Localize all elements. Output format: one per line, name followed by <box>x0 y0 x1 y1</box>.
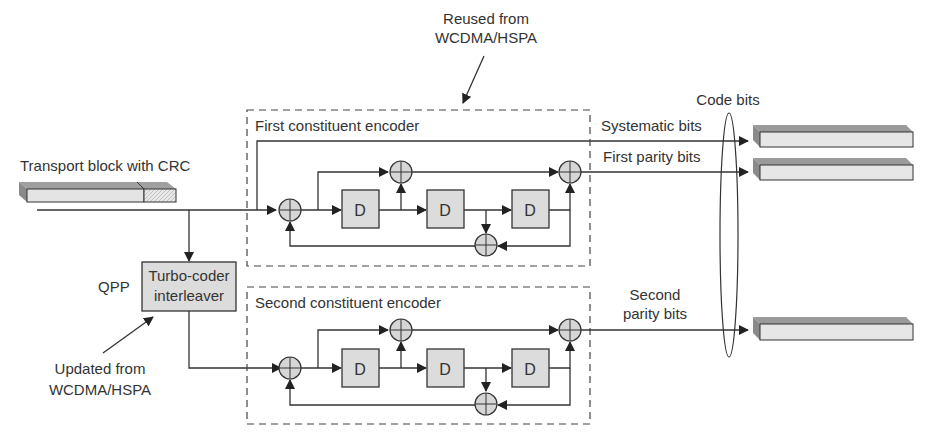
interleaver-label-line1: Turbo-coder <box>148 267 229 284</box>
reused-label-line1: Reused from <box>443 10 529 27</box>
interleaver-label-line2: interleaver <box>154 287 224 304</box>
delay-label: D <box>524 361 536 378</box>
second-parity-label-line1: Second <box>630 286 681 303</box>
code-bits-label: Code bits <box>696 91 759 108</box>
first-parity-output-bar <box>753 158 913 180</box>
systematic-output-bar <box>753 125 913 147</box>
delay-label: D <box>439 202 451 219</box>
updated-pointer-arrow <box>103 317 153 353</box>
updated-label-line1: Updated from <box>55 360 146 377</box>
code-bits-ellipse <box>720 113 738 357</box>
second-encoder-title: Second constituent encoder <box>255 294 441 311</box>
qpp-label: QPP <box>98 278 130 295</box>
delay-label: D <box>439 361 451 378</box>
second-parity-output-bar <box>753 317 913 340</box>
delay-label: D <box>354 361 366 378</box>
first-parity-bits-label: First parity bits <box>603 148 701 165</box>
turbo-encoder-diagram: Reused from WCDMA/HSPA Transport block w… <box>0 0 929 441</box>
interleaver-out-wire <box>189 311 281 368</box>
transport-block-bar <box>19 182 176 202</box>
systematic-bits-label: Systematic bits <box>601 117 702 134</box>
reused-label-line2: WCDMA/HSPA <box>435 29 537 46</box>
delay-label: D <box>354 202 366 219</box>
transport-block-label: Transport block with CRC <box>20 157 190 174</box>
second-parity-label-line2: parity bits <box>623 305 687 322</box>
second-constituent-encoder: Second constituent encoder D D D <box>247 287 590 424</box>
first-constituent-encoder: First constituent encoder D D D <box>247 110 590 266</box>
reused-pointer-arrow <box>463 56 484 103</box>
updated-label-line2: WCDMA/HSPA <box>49 381 151 398</box>
delay-label: D <box>524 202 536 219</box>
first-encoder-title: First constituent encoder <box>255 117 419 134</box>
